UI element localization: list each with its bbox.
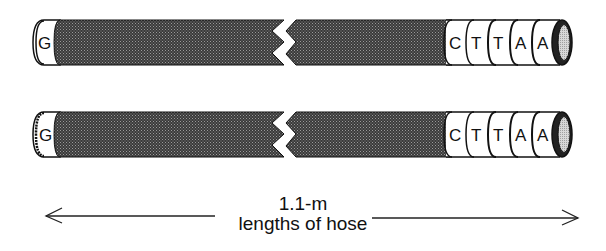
- right-end-cap: [552, 20, 572, 65]
- right-bands: C T T A A: [444, 112, 560, 157]
- dimension-label-line1: 1.1-m: [0, 194, 606, 214]
- hose-body-left: [54, 20, 284, 65]
- band-letter: G: [39, 126, 52, 145]
- band-letter: T: [471, 34, 481, 53]
- band-letter: T: [493, 126, 503, 145]
- dimension-label-line2: lengths of hose: [0, 214, 606, 234]
- band-letter: A: [515, 34, 527, 53]
- band-letter: C: [449, 126, 461, 145]
- hose-body-left: [54, 112, 284, 157]
- band-letter: A: [515, 126, 527, 145]
- dimension-label: 1.1-m lengths of hose: [0, 194, 606, 234]
- hose-body-right: [286, 112, 450, 157]
- band-letter: A: [537, 34, 549, 53]
- hose-2: G C T T A A: [33, 112, 572, 157]
- band-letter: C: [449, 34, 461, 53]
- band-letter: A: [537, 126, 549, 145]
- right-end-cap: [552, 112, 572, 157]
- band-letter: T: [471, 126, 481, 145]
- hose-1: G C T T A A: [33, 20, 572, 65]
- band-letter: T: [493, 34, 503, 53]
- hose-body-right: [286, 20, 450, 65]
- right-bands: C T T A A: [444, 20, 560, 65]
- band-letter: G: [38, 34, 51, 53]
